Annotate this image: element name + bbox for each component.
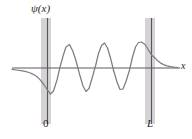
wavefunction-axis-label: ψ(x) (31, 3, 50, 14)
right-barrier-band (145, 18, 155, 124)
well-left-boundary-label: 0 (43, 118, 49, 129)
wavefunction-plot (0, 0, 192, 139)
left-barrier-band (41, 18, 51, 124)
position-axis-label: x (181, 61, 185, 71)
well-right-boundary-label: L (147, 118, 153, 129)
wavefunction-figure: ψ(x) x 0 L (0, 0, 192, 139)
